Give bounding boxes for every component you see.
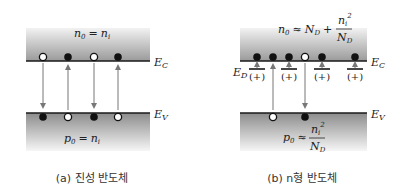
band-diagram: EC n0=ni EV p0=ni (a) 진성 반도체 EC n0≈ND+ n… [0,0,401,195]
caption-intrinsic: (a) 진성 반도체 [56,172,128,185]
panel-intrinsic: EC n0=ni EV p0=ni (a) 진성 반도체 [26,27,169,185]
donor-ion: (+) [281,64,297,82]
electron-icon [285,53,293,61]
hole-icon [114,113,121,120]
svg-text:n0≈ND+: n0≈ND+ [278,23,332,37]
electron-icon [351,53,359,61]
hole-icon [301,53,308,60]
electron-icon [318,53,326,61]
hole-icon [64,113,71,120]
electron-icon [253,53,261,61]
ec-label: EC [370,56,385,70]
donor-ion: (+) [347,64,363,82]
hole-icon [269,113,276,120]
electron-icon [64,53,72,61]
donor-ion: (+) [314,64,330,82]
hole-icon [39,53,46,60]
panel-n-type: EC n0≈ND+ ni2 ND ED (+) (+) [232,12,386,185]
svg-text:(+): (+) [249,71,265,82]
ec-label: EC [153,56,168,70]
ed-label: ED [232,66,248,80]
svg-text:(+): (+) [347,71,363,82]
svg-text:(+): (+) [281,71,297,82]
hole-icon [90,53,97,60]
svg-text:ni2: ni2 [338,12,352,28]
electron-icon [39,113,47,121]
ev-label: EV [153,108,169,122]
p0-equation: p0=ni [64,132,100,146]
electron-icon [114,53,122,61]
n0-equation: n0=ni [74,27,110,41]
svg-text:(+): (+) [314,71,330,82]
electron-icon [301,113,309,121]
caption-n-type: (b) n형 반도체 [267,172,337,185]
electron-icon [90,113,98,121]
electron-icon [269,53,277,61]
ev-label: EV [370,108,386,122]
donor-ion: (+) [249,64,265,82]
